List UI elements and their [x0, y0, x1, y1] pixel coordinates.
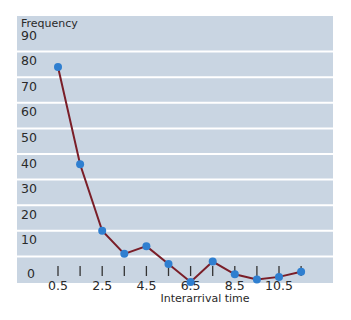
data-point	[54, 63, 62, 71]
y-tick-label: 70	[21, 79, 37, 94]
y-tick-label: 20	[21, 207, 37, 222]
data-point	[253, 275, 261, 283]
data-point	[209, 258, 217, 266]
x-tick-label: 2.5	[92, 278, 112, 293]
x-tick-label: 4.5	[136, 278, 156, 293]
data-point	[142, 242, 150, 250]
data-point	[275, 273, 283, 281]
x-tick-label: 8.5	[225, 278, 245, 293]
y-axis-title: Frequency	[21, 17, 78, 30]
data-point	[120, 250, 128, 258]
y-tick-label: 60	[21, 104, 37, 119]
x-axis-title: Interarrival time	[160, 292, 249, 305]
y-tick-label: 0	[27, 266, 35, 281]
data-point	[98, 227, 106, 235]
data-point	[187, 278, 195, 286]
data-point	[297, 268, 305, 276]
x-tick-label: 0.5	[48, 278, 68, 293]
line-chart: 0102030405060708090 Frequency 0.52.54.56…	[0, 0, 351, 320]
y-tick-label: 30	[21, 181, 37, 196]
plot-background	[17, 16, 333, 283]
y-tick-label: 80	[21, 53, 37, 68]
data-point	[165, 260, 173, 268]
data-point	[76, 160, 84, 168]
y-tick-label: 50	[21, 130, 37, 145]
y-tick-label: 10	[21, 232, 37, 247]
data-point	[231, 270, 239, 278]
y-tick-label: 40	[21, 156, 37, 171]
